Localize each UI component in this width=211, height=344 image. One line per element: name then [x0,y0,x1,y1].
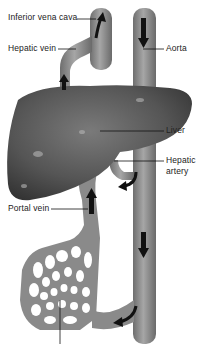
hepatic-artery-vessel [110,160,134,180]
arrow-down-aorta-top-icon [141,18,146,40]
capillary-aorta-connector [92,300,134,329]
liver-organ [7,85,192,200]
label-hepatic-artery-line1: Hepatic [166,155,196,165]
label-inferior-vena-cava: Inferior vena cava [8,12,77,22]
label-aorta: Aorta [166,43,187,53]
label-liver: Liver [166,125,185,135]
liver-circulation-diagram: Inferior vena cava Hepatic vein Aorta Li… [0,0,211,344]
label-portal-vein: Portal vein [8,203,49,213]
label-hepatic-artery-line2: artery [166,166,188,176]
arrow-down-aorta-bottom-icon [141,232,146,250]
arrow-up-portal-vein-icon [89,196,94,214]
label-hepatic-vein: Hepatic vein [8,43,56,53]
